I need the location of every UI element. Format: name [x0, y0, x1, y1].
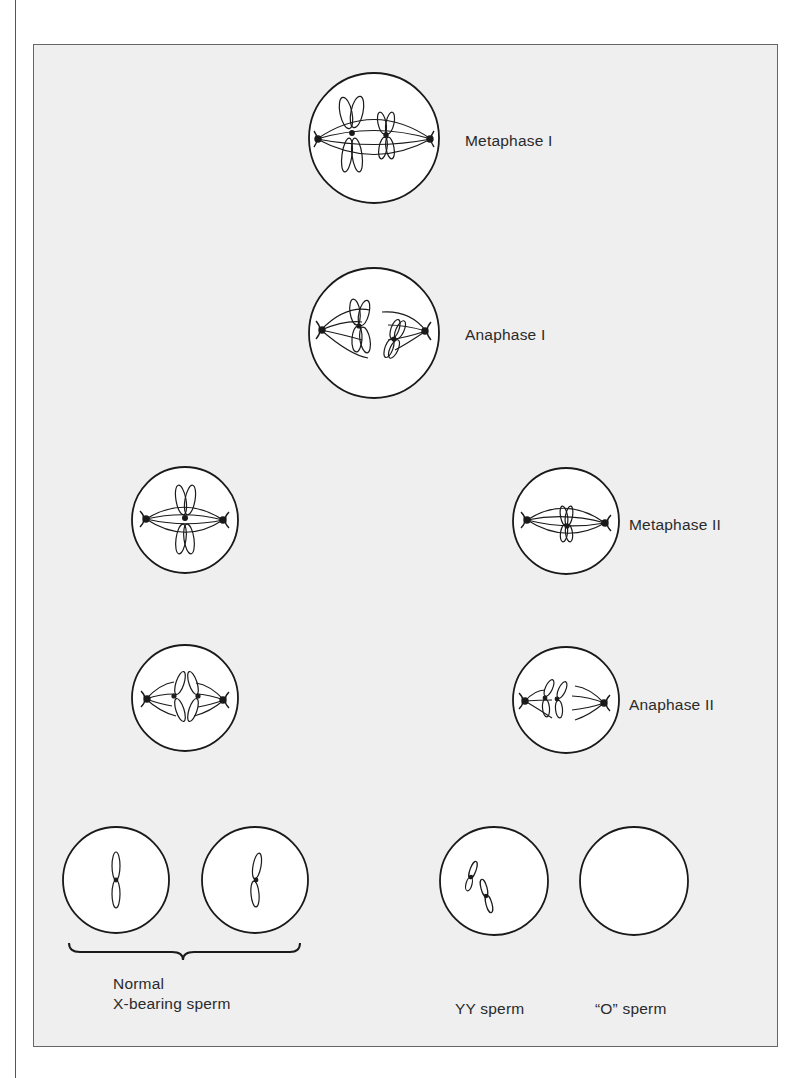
cell-metaphase-1	[309, 73, 439, 203]
sperm-normal-x-2	[202, 827, 308, 933]
meiosis-nondisjunction-diagram	[0, 0, 811, 1078]
label-x-bearing-sperm: X-bearing sperm	[113, 994, 231, 1013]
sperm-normal-x-1	[63, 827, 169, 933]
label-normal: Normal	[113, 974, 164, 993]
label-yy-sperm: YY sperm	[455, 999, 524, 1018]
curly-brace	[69, 943, 300, 960]
cell-anaphase-2-left	[132, 645, 238, 751]
cell-metaphase-2-left	[132, 467, 238, 573]
label-o-sperm: “O” sperm	[595, 999, 667, 1018]
label-anaphase-1: Anaphase I	[465, 325, 545, 344]
sperm-o-empty	[580, 827, 688, 935]
cell-metaphase-2-right	[513, 468, 619, 574]
sperm-yy	[440, 827, 548, 935]
label-anaphase-2: Anaphase II	[629, 695, 714, 714]
label-metaphase-1: Metaphase I	[465, 131, 553, 150]
label-metaphase-2: Metaphase II	[629, 515, 721, 534]
cell-anaphase-1	[309, 268, 439, 398]
cell-anaphase-2-right	[513, 647, 619, 753]
